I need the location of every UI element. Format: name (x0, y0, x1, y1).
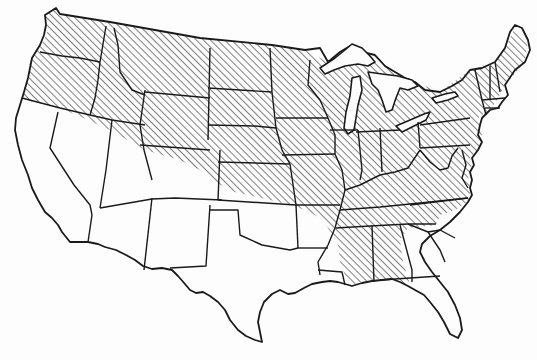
az-nv-border (88, 215, 92, 242)
nm-tx-border (170, 205, 210, 268)
co-nm-border (100, 198, 222, 208)
ca-nv-border (50, 112, 92, 215)
map-svg (0, 0, 537, 360)
ia-mo-border (282, 154, 335, 155)
az-nm-border (144, 198, 152, 270)
nv-ut-border (100, 120, 112, 208)
ok-ar-border (296, 205, 298, 248)
ok-tx-border (210, 210, 298, 250)
us-map (0, 0, 537, 360)
